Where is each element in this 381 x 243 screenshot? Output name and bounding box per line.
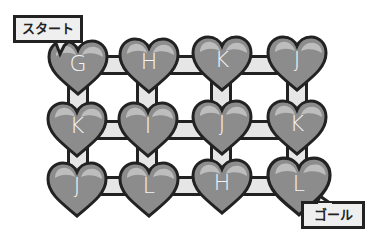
heart-letter: L bbox=[264, 172, 334, 196]
heart-letter: I bbox=[116, 114, 180, 138]
goal-label: ゴール bbox=[301, 201, 365, 229]
heart-cell-r2-c2[interactable]: H bbox=[190, 157, 254, 215]
heart-letter: K bbox=[190, 48, 254, 72]
heart-letter: J bbox=[45, 174, 109, 198]
heart-cell-r1-c0[interactable]: K bbox=[45, 100, 109, 158]
heart-letter: J bbox=[265, 48, 329, 72]
start-label: スタート bbox=[13, 15, 83, 43]
heart-letter: H bbox=[117, 50, 181, 74]
heart-letter: K bbox=[265, 112, 329, 136]
heart-cell-r0-c1[interactable]: H bbox=[117, 36, 181, 94]
heart-letter: L bbox=[117, 174, 181, 198]
heart-cell-r1-c1[interactable]: I bbox=[116, 100, 180, 158]
heart-cell-r0-c3[interactable]: J bbox=[265, 34, 329, 92]
heart-cell-r2-c0[interactable]: J bbox=[45, 160, 109, 218]
heart-letter: H bbox=[190, 171, 254, 195]
heart-letter: K bbox=[45, 114, 109, 138]
heart-maze-puzzle: G H K J K I J K J L H L bbox=[0, 0, 381, 243]
heart-cell-r1-c2[interactable]: J bbox=[190, 98, 254, 156]
heart-cell-r0-c2[interactable]: K bbox=[190, 34, 254, 92]
heart-cell-r2-c1[interactable]: L bbox=[117, 160, 181, 218]
goal-tail-cover bbox=[318, 203, 332, 206]
heart-cell-r1-c3[interactable]: K bbox=[265, 98, 329, 156]
heart-letter: J bbox=[190, 112, 254, 136]
